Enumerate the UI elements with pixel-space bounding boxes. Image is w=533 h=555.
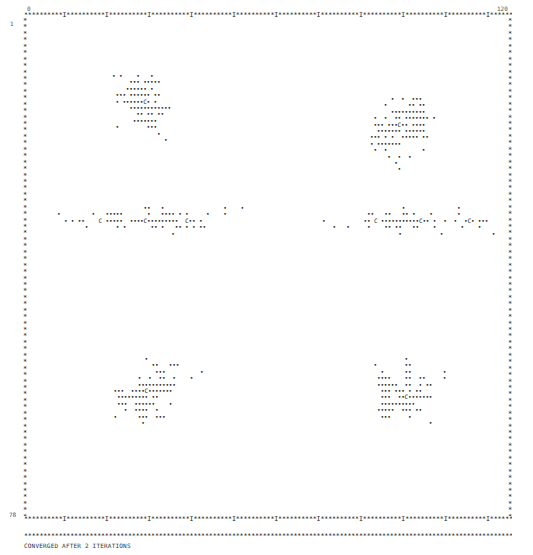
cluster-2: • • ••• • •• •• •••••••••• • • •• ••••••… — [363, 96, 436, 173]
bottom-border: **********I**********I**********I*******… — [24, 516, 512, 522]
top-border: **********I**********I**********I*******… — [24, 12, 512, 18]
footer-status: CONVERGED AFTER 2 ITERATIONS — [24, 542, 131, 549]
cluster-4: • • •• •• •• • • • • •• C •••••••••••C••… — [322, 205, 495, 237]
separator-line: ****************************************… — [24, 533, 512, 539]
cluster-5: • •• ••• ••• • • • •• • • ••••••••••• ••… — [110, 356, 203, 426]
cluster-1: • • • • ••• ••••• •••••• • ••• •••••• ••… — [112, 73, 171, 143]
cluster-6: • • •• • •• • •••• •• •• • •••••• •• • •… — [370, 356, 446, 426]
x-axis-label-left: 0 — [27, 5, 31, 12]
cluster-3: •• • • • • • ••••• • •••• • • • • • • ••… — [57, 205, 244, 237]
y-axis-label-top: 1 — [10, 20, 14, 27]
right-border: * * * * * * * * * * * * * * * * * * * * … — [507, 18, 513, 516]
y-axis-label-bottom: 78 — [9, 511, 16, 518]
x-axis-label-right: 120 — [497, 5, 508, 12]
left-border: * * * * * * * * * * * * * * * * * * * * … — [22, 18, 28, 516]
